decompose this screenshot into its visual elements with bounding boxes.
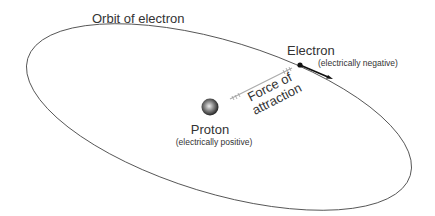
proton-sphere (202, 99, 219, 116)
proton-label: Proton (191, 122, 229, 137)
electron-sublabel: (electrically negative) (318, 58, 398, 68)
force-label: Force of attraction (243, 68, 304, 118)
orbit-label: Orbit of electron (92, 11, 185, 26)
electron-orbit (6, 0, 433, 216)
proton-sublabel: (electrically positive) (176, 137, 253, 147)
atom-diagram: Orbit of electron Force of attraction Pr… (0, 0, 435, 216)
electron-label: Electron (287, 43, 335, 58)
electron-dot (297, 62, 302, 67)
